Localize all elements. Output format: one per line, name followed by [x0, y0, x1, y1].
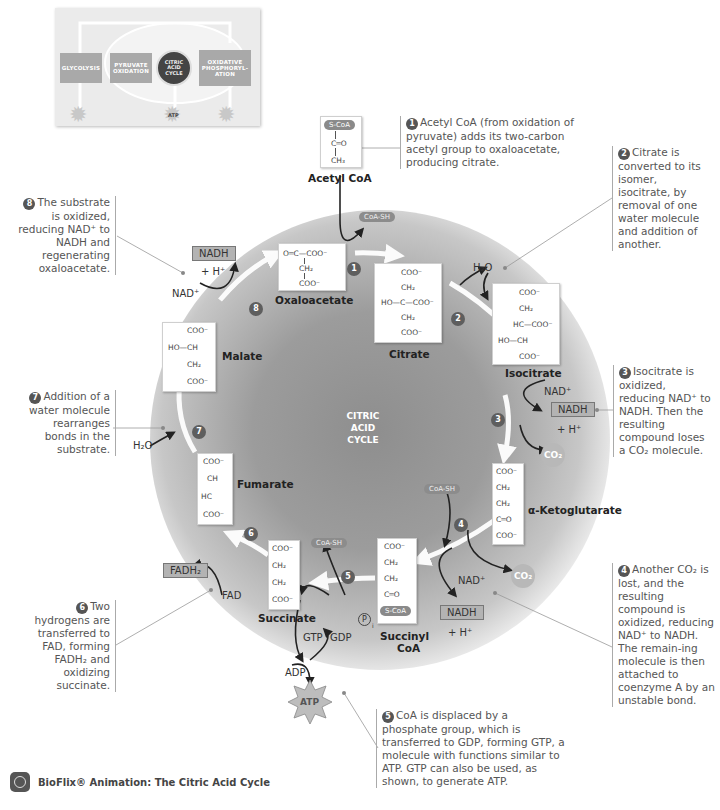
molecule-succinate: COO⁻ CH₂ CH₂ COO⁻: [268, 540, 300, 610]
molecule-oxaloacetate: O═C—COO⁻ CH₂ COO⁻: [278, 243, 346, 291]
phosphate-pi: P: [358, 613, 371, 626]
nadh-step4: NADH: [440, 605, 484, 620]
formula-line: CH₃: [331, 156, 345, 165]
adp-label: ADP: [285, 667, 306, 678]
note-text: Two hydrogens are transferred to FAD, fo…: [34, 600, 110, 691]
note-text: Addition of a water molecule rearranges …: [29, 390, 110, 455]
note-step-4: 4Another CO₂ is lost, and the resulting …: [612, 563, 717, 707]
co2-step4: CO₂: [511, 564, 535, 588]
step-1-badge: 1: [347, 262, 361, 276]
formula-line: CH₂: [299, 264, 313, 273]
note-step-2: 2Citrate is converted to its isomer, iso…: [612, 146, 710, 251]
bioflix-link[interactable]: BioFlix® Animation: The Citric Acid Cycl…: [10, 772, 270, 792]
coa-sh-step5: CoA-SH: [311, 538, 347, 548]
nadh-step3: NADH: [551, 402, 595, 417]
formula-line: COO⁻: [519, 352, 540, 361]
note-step-1: 1Acetyl CoA (from oxidation of pyruvate)…: [400, 116, 580, 169]
formula-line: COO⁻: [272, 544, 293, 553]
formula-line: CH₂: [496, 499, 510, 508]
formula-line: COO⁻: [299, 279, 320, 288]
formula-line: CH₂: [401, 313, 415, 322]
formula-line: HO—C—COO⁻: [381, 298, 434, 307]
step-4-badge: 4: [454, 518, 468, 532]
molecule-name-fumarate: Fumarate: [237, 478, 294, 490]
name-line: Succinyl: [380, 630, 429, 642]
atp-label: ATP: [300, 697, 319, 707]
step-8-badge: 8: [249, 302, 263, 316]
step-number-icon: 4: [618, 565, 630, 577]
step-6-badge: 6: [244, 527, 258, 541]
formula-line: COO⁻: [187, 377, 208, 386]
step-3-badge: 3: [491, 413, 505, 427]
pi-subscript: i: [372, 622, 374, 629]
formula-line: COO⁻: [187, 326, 208, 335]
formula-line: HC: [201, 492, 212, 501]
note-step-8: 8The substrate is oxidized, reducing NAD…: [18, 196, 116, 275]
molecule-name-citrate: Citrate: [389, 348, 430, 360]
h-ion-step3: + H⁺: [557, 424, 581, 435]
molecule-isocitrate: COO⁻ CH₂ HC—COO⁻ HO—CH COO⁻: [492, 283, 560, 365]
molecule-fumarate: COO⁻ CH HC COO⁻: [197, 453, 233, 525]
formula-line: COO⁻: [384, 542, 405, 551]
formula-line: COO⁻: [203, 510, 224, 519]
molecule-name-alpha-ketoglutarate: α-Ketoglutarate: [528, 504, 622, 516]
formula-line: COO⁻: [272, 595, 293, 604]
formula-line: C═O: [331, 139, 347, 148]
nad-step8: NAD⁺: [172, 288, 199, 299]
fadh2-box: FADH₂: [163, 563, 208, 578]
formula-line: CH₂: [187, 360, 201, 369]
step-2-badge: 2: [451, 312, 465, 326]
molecule-name-isocitrate: Isocitrate: [505, 367, 562, 379]
formula-line: CH₂: [384, 574, 398, 583]
step-number-icon: 3: [619, 367, 631, 379]
formula-line: CH₂: [272, 561, 286, 570]
pi-label: P: [362, 615, 367, 624]
note-text: Acetyl CoA (from oxidation of pyruvate) …: [406, 116, 574, 168]
step-number-icon: 1: [406, 118, 418, 130]
gtp-label: GTP: [303, 632, 323, 643]
note-step-5: 5CoA is displaced by a phosphate group, …: [376, 709, 566, 788]
molecule-acetyl-coa: S-CoA C═O CH₃: [320, 116, 362, 168]
formula-line: COO⁻: [203, 457, 224, 466]
formula-line: COO⁻: [401, 328, 422, 337]
molecule-name-succinyl-coa: Succinyl CoA: [380, 630, 429, 654]
name-line: CoA: [380, 642, 429, 654]
coa-sh-step4: CoA-SH: [424, 484, 460, 494]
formula-line: COO⁻: [519, 288, 540, 297]
step-number-icon: 2: [618, 148, 630, 160]
formula-line: COO⁻: [401, 268, 422, 277]
h2o-step2: H₂O: [473, 262, 492, 273]
molecule-name-oxaloacetate: Oxaloacetate: [275, 294, 353, 306]
step-5-badge: 5: [341, 570, 355, 584]
molecule-malate: COO⁻ HO—CH CH₂ COO⁻: [162, 322, 216, 392]
nad-step3: NAD⁺: [544, 386, 571, 397]
note-text: CoA is displaced by a phosphate group, w…: [382, 709, 565, 787]
nadh-step8: NADH: [192, 246, 236, 261]
step-number-icon: 5: [382, 711, 394, 723]
note-text: Another CO₂ is lost, and the resulting c…: [618, 563, 715, 706]
formula-line: COO⁻: [496, 467, 517, 476]
note-text: Citrate is converted to its isomer, isoc…: [618, 146, 701, 250]
formula-line: C═O: [384, 590, 400, 599]
formula-line: HO—CH: [168, 343, 198, 352]
h-ion-step8: + H⁺: [201, 266, 225, 277]
fad-label: FAD: [222, 590, 241, 601]
molecule-succinyl-coa: COO⁻ CH₂ CH₂ C═O S-CoA: [377, 538, 417, 624]
step-number-icon: 8: [23, 198, 35, 210]
coa-sh-step1: CoA-SH: [359, 212, 395, 222]
formula-line: CH₂: [496, 483, 510, 492]
formula-line: CH: [207, 474, 218, 483]
s-coa-label: S-CoA: [324, 120, 355, 130]
formula-line: CH₂: [519, 304, 533, 313]
formula-line: O═C—COO⁻: [283, 249, 327, 258]
step-number-icon: 6: [76, 602, 88, 614]
formula-line: HC—COO⁻: [513, 320, 552, 329]
h-ion-step4: + H⁺: [448, 627, 472, 638]
molecule-alpha-ketoglutarate: COO⁻ CH₂ CH₂ C═O COO⁻: [492, 463, 524, 545]
formula-line: CH₂: [401, 283, 415, 292]
molecule-name-acetyl-coa: Acetyl CoA: [308, 172, 372, 184]
note-step-6: 6Two hydrogens are transferred to FAD, f…: [18, 600, 116, 692]
co2-step3: CO₂: [541, 443, 565, 467]
gdp-label: GDP: [330, 632, 351, 643]
formula-line: COO⁻: [496, 531, 517, 540]
